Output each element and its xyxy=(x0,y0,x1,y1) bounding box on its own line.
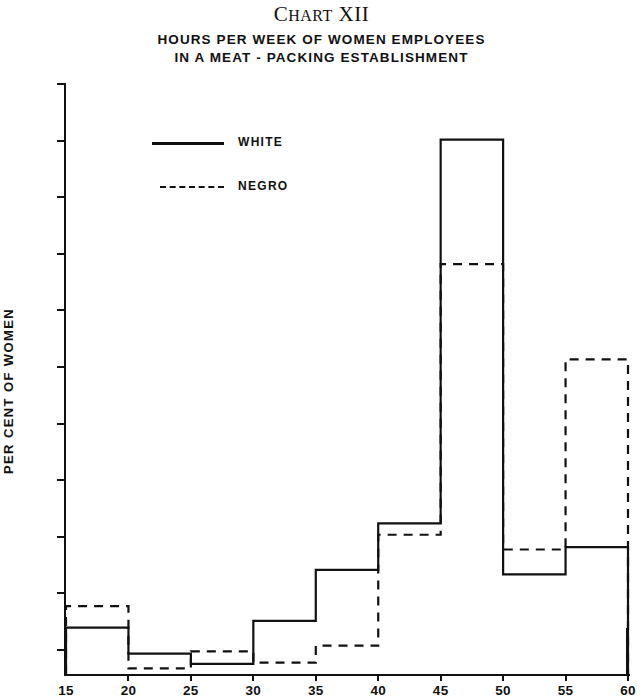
chart-number-smallcaps: HART xyxy=(288,7,333,24)
data-step-outlines xyxy=(66,108,628,674)
x-tick-mark xyxy=(377,674,379,681)
y-tick-mark xyxy=(57,140,66,142)
chart-title-line-1: HOURS PER WEEK OF WOMEN EMPLOYEES xyxy=(0,32,643,47)
y-tick-mark xyxy=(57,479,66,481)
y-tick-mark xyxy=(57,196,66,198)
x-tick-mark xyxy=(127,674,129,681)
x-tick-label: 15 xyxy=(58,683,74,698)
chart-number: CHART XII xyxy=(0,2,643,27)
y-tick-mark xyxy=(57,536,66,538)
chart-title-line-2: IN A MEAT - PACKING ESTABLISHMENT xyxy=(0,50,643,65)
y-tick-mark xyxy=(57,649,66,651)
x-tick-label: 45 xyxy=(433,683,449,698)
x-tick-label: 40 xyxy=(370,683,386,698)
x-tick-label: 50 xyxy=(495,683,511,698)
y-axis-title: PER CENT OF WOMEN xyxy=(1,308,16,474)
x-tick-label: 55 xyxy=(558,683,574,698)
y-tick-mark xyxy=(57,423,66,425)
y-tick-mark xyxy=(57,592,66,594)
x-tick-mark xyxy=(440,674,442,681)
x-tick-mark xyxy=(190,674,192,681)
x-axis-line xyxy=(64,674,630,676)
x-tick-label: 25 xyxy=(183,683,199,698)
x-tick-label: 30 xyxy=(246,683,262,698)
x-tick-label: 60 xyxy=(620,683,636,698)
series-outline-white xyxy=(66,140,628,674)
x-tick-mark xyxy=(502,674,504,681)
x-tick-label: 35 xyxy=(308,683,324,698)
x-tick-mark xyxy=(252,674,254,681)
y-tick-mark xyxy=(57,366,66,368)
y-tick-mark xyxy=(57,309,66,311)
series-outline-negro xyxy=(66,264,628,674)
chart-number-text: CHART XII xyxy=(274,2,370,26)
x-tick-mark xyxy=(315,674,317,681)
plot-area: PER CENT OF WOMEN 0510152025303540455015… xyxy=(66,108,628,674)
x-tick-mark xyxy=(565,674,567,681)
y-tick-mark xyxy=(57,83,66,85)
y-tick-mark xyxy=(57,253,66,255)
x-tick-mark xyxy=(627,674,629,681)
x-tick-label: 20 xyxy=(121,683,137,698)
